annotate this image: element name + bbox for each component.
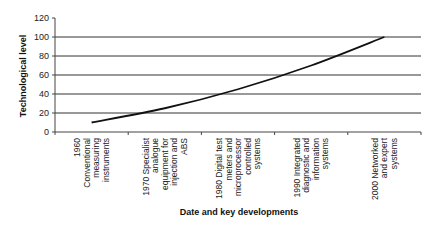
x-category-label-line: systems bbox=[389, 138, 399, 169]
line-chart: 020406080100120 1960Conventionalmeasurin… bbox=[0, 0, 437, 228]
y-tick-label: 80 bbox=[39, 51, 49, 61]
x-category-label-line: meters and bbox=[224, 138, 234, 181]
x-axis-title: Date and key developments bbox=[180, 207, 299, 217]
x-category-label-line: 1980 Digital test bbox=[214, 137, 224, 199]
x-category-label-line: and expert bbox=[379, 137, 389, 178]
x-category-label-line: injection and bbox=[169, 138, 179, 186]
x-category-label-line: 1990 Integrated bbox=[292, 138, 302, 198]
x-category-label: 1990 Integrateddiagnostic andinformation… bbox=[292, 138, 331, 198]
x-category-label: 1980 Digital testmeters andmicroprocesso… bbox=[214, 137, 262, 199]
x-category-label-line: microprocessor bbox=[233, 138, 243, 196]
series-line bbox=[92, 37, 385, 123]
x-category-label-line: equipment for bbox=[160, 138, 170, 190]
x-category-labels: 1960Conventionalmeasuringinstruments1970… bbox=[72, 137, 399, 200]
data-series bbox=[92, 37, 385, 123]
x-category-label-line: systems bbox=[252, 138, 262, 169]
x-axis bbox=[55, 132, 421, 135]
x-category-label-line: systems bbox=[320, 138, 330, 169]
y-tick-label: 20 bbox=[39, 108, 49, 118]
x-category-label-line: information bbox=[311, 138, 321, 180]
y-tick-label: 60 bbox=[39, 70, 49, 80]
x-category-label-line: 2000 Networked bbox=[370, 138, 380, 200]
y-tick-label: 120 bbox=[34, 13, 49, 23]
y-tick-label: 100 bbox=[34, 32, 49, 42]
x-category-label-line: measuring bbox=[91, 138, 101, 178]
x-category-label-line: diagnostic and bbox=[301, 138, 311, 193]
x-category-label-line: controlled bbox=[243, 138, 253, 175]
x-category-label-line: instruments bbox=[101, 138, 111, 182]
y-tick-label: 0 bbox=[44, 127, 49, 137]
y-axis: 020406080100120 bbox=[34, 13, 55, 137]
x-category-label: 1970 Specialistanalogueequipment forinje… bbox=[141, 137, 189, 195]
x-category-label-line: 1960 bbox=[72, 138, 82, 157]
x-category-label: 1960Conventionalmeasuringinstruments bbox=[72, 138, 111, 188]
y-axis-title: Technological level bbox=[18, 35, 28, 117]
x-category-label-line: 1970 Specialist bbox=[141, 137, 151, 195]
gridlines bbox=[55, 37, 421, 113]
x-category-label-line: ABS bbox=[179, 138, 189, 155]
x-category-label-line: analogue bbox=[150, 138, 160, 173]
x-category-label-line: Conventional bbox=[82, 138, 92, 188]
y-tick-label: 40 bbox=[39, 89, 49, 99]
x-category-label: 2000 Networkedand expertsystems bbox=[370, 137, 399, 200]
